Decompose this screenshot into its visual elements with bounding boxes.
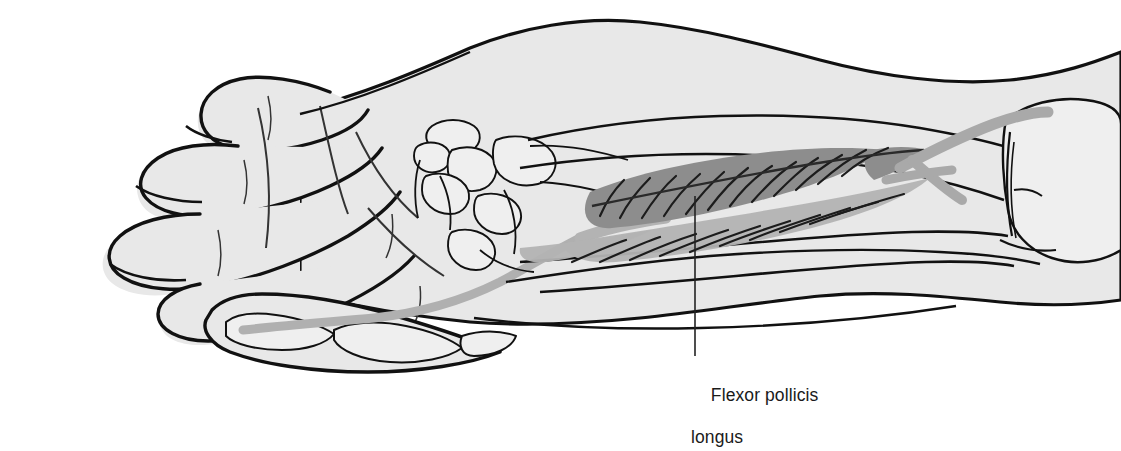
label-line-1: Flexor pollicis <box>711 385 819 405</box>
label-line-2: longus <box>691 427 818 448</box>
label-flexor-pollicis-longus: Flexor pollicis longus <box>691 364 818 451</box>
